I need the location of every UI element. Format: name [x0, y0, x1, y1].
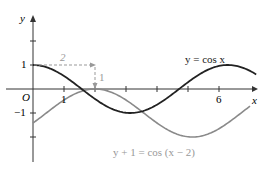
- y-tick-label-1: 1: [21, 58, 27, 70]
- y-axis-arrow-icon: [30, 15, 36, 22]
- vertical-shift-label: 1: [99, 71, 105, 83]
- chart-canvas: y x O 1 6 1 −1 2 1 y = cos x y + 1 = cos…: [0, 0, 268, 169]
- arrowhead-right-icon: [90, 63, 96, 68]
- horizontal-shift-label: 2: [60, 51, 66, 63]
- curve-label-shifted: y + 1 = cos (x − 2): [113, 146, 195, 159]
- x-axis-label: x: [251, 94, 257, 106]
- shift-arrows: [34, 65, 95, 84]
- axes: [6, 20, 252, 162]
- arrowhead-down-icon: [93, 83, 98, 89]
- x-axis-arrow-icon: [252, 86, 258, 92]
- origin-label: O: [22, 91, 30, 103]
- y-tick-label-minus-1: −1: [14, 106, 26, 118]
- x-tick-label-1: 1: [61, 93, 67, 105]
- curve-label-cos: y = cos x: [185, 53, 226, 65]
- y-axis-label: y: [19, 12, 25, 24]
- x-tick-label-6: 6: [216, 93, 222, 105]
